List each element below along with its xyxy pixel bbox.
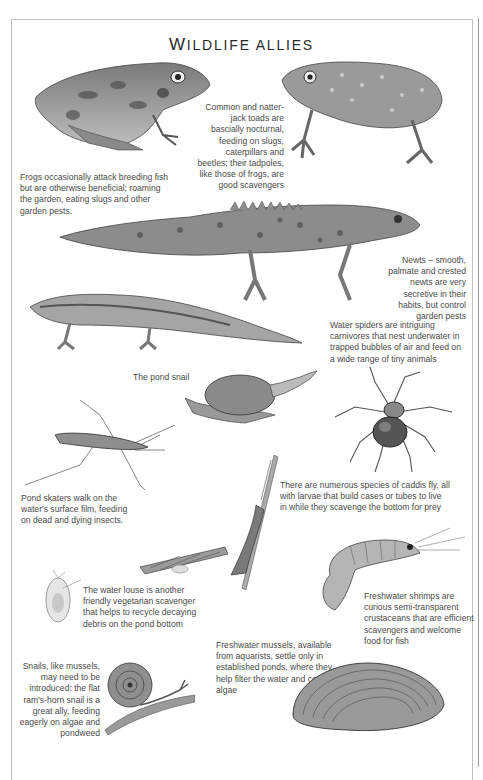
- caption-newts: Newts – smooth, palmate and crested newt…: [376, 255, 466, 322]
- water-spider-illustration: [330, 362, 455, 477]
- smooth-newt-illustration: [30, 287, 305, 352]
- freshwater-mussel-illustration: [288, 655, 448, 735]
- page-title: WILDLIFE ALLIES: [0, 35, 483, 55]
- caddis-larva-case-illustration: [140, 542, 230, 577]
- page-edge-rule: [478, 18, 479, 767]
- caption-caddis-fly: There are numerous species of caddis fly…: [280, 480, 450, 514]
- pond-snail-illustration: [185, 365, 320, 430]
- frog-illustration: [28, 55, 213, 155]
- ramshorn-snail-illustration: [100, 660, 195, 735]
- caption-water-spiders: Water spiders are intriguing carnivores …: [330, 320, 465, 365]
- caddis-fly-illustration: [226, 455, 286, 590]
- title-initial: W: [169, 35, 187, 54]
- caption-water-louse: The water louse is another friendly vege…: [83, 585, 208, 630]
- pond-skater-illustration: [20, 395, 180, 495]
- toad-illustration: [272, 55, 447, 170]
- caption-pond-skaters: Pond skaters walk on the water's surface…: [21, 493, 131, 527]
- water-louse-illustration: [43, 568, 83, 628]
- caption-toads: Common and natter-jack toads are bascial…: [196, 102, 284, 192]
- caption-shrimps: Freshwater shrimps are curious semi-tran…: [364, 591, 474, 647]
- caption-snails: Snails, like mussels, may need to be int…: [12, 661, 100, 739]
- title-rest: ILDLIFE ALLIES: [187, 37, 314, 53]
